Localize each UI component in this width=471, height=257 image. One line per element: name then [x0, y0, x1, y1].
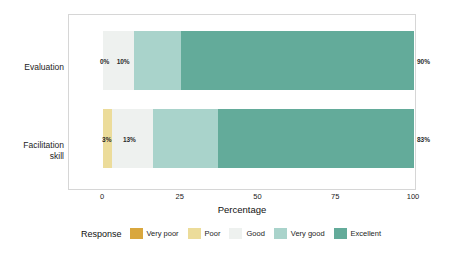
bar-value-label: 13% — [123, 135, 136, 142]
y-axis-label-evaluation: Evaluation — [24, 62, 64, 73]
legend-item-label: Very poor — [147, 229, 179, 238]
stacked-bar-chart: Evaluation Facilitation skill 0%10%90% 3… — [0, 0, 471, 257]
bar-row-evaluation: 0%10%90% — [103, 31, 414, 90]
bar-value-label: 90% — [417, 57, 430, 64]
bar-value-label: 83% — [417, 135, 430, 142]
legend-item-poor[interactable]: Poor — [188, 228, 221, 239]
legend-swatch-icon — [130, 228, 143, 239]
legend-swatch-icon — [274, 228, 287, 239]
y-axis-labels: Evaluation Facilitation skill — [8, 14, 64, 190]
bar-row-facilitation-skill: 3%13%83% — [103, 109, 414, 168]
legend: Response Very poorPoorGoodVery goodExcel… — [0, 228, 471, 239]
legend-item-good[interactable]: Good — [229, 228, 264, 239]
plot-panel: 0%10%90% 3%13%83% — [68, 14, 416, 190]
bar-segment-excellent — [181, 31, 414, 90]
x-axis-tick-0: 0 — [100, 192, 104, 201]
legend-item-excellent[interactable]: Excellent — [334, 228, 381, 239]
legend-swatch-icon — [334, 228, 347, 239]
legend-item-very-good[interactable]: Very good — [274, 228, 325, 239]
legend-swatch-icon — [188, 228, 201, 239]
x-axis-tick-50: 50 — [253, 192, 261, 201]
x-axis-tick-100: 100 — [407, 192, 420, 201]
bar-value-label: 10% — [117, 57, 130, 64]
legend-item-very-poor[interactable]: Very poor — [130, 228, 179, 239]
x-axis-title: Percentage — [68, 204, 416, 215]
bar-value-label: 0% — [100, 57, 109, 64]
x-axis-tick-75: 75 — [331, 192, 339, 201]
bar-segment-very-good — [153, 109, 218, 168]
x-axis-tick-25: 25 — [176, 192, 184, 201]
legend-item-label: Good — [246, 229, 264, 238]
legend-title: Response — [81, 229, 122, 239]
bar-segment-very-good — [134, 31, 181, 90]
legend-item-label: Very good — [291, 229, 325, 238]
legend-item-label: Excellent — [351, 229, 381, 238]
bar-value-label: 3% — [102, 135, 111, 142]
legend-item-label: Poor — [205, 229, 221, 238]
bar-segment-excellent — [218, 109, 414, 168]
legend-swatch-icon — [229, 228, 242, 239]
y-axis-label-facilitation-skill: Facilitation skill — [23, 140, 64, 162]
plot-area: 0%10%90% 3%13%83% — [69, 15, 415, 189]
